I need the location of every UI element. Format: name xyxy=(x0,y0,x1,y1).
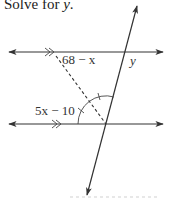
unknown-angle-label: y xyxy=(128,53,136,68)
scan-artifact xyxy=(70,196,160,198)
arc-tick-left xyxy=(78,108,84,113)
lower-angle-label: 5x − 10 xyxy=(35,103,75,118)
transversal-line xyxy=(87,6,137,195)
upper-angle-label: 68 − x xyxy=(62,52,96,67)
geometry-diagram: 68 − x 5x − 10 y xyxy=(0,0,170,204)
